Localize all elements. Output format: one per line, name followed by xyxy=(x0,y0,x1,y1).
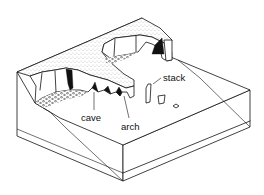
stack xyxy=(146,84,151,103)
label-stack: stack xyxy=(163,72,185,83)
stump xyxy=(158,95,165,104)
label-cave: cave xyxy=(81,112,101,123)
label-arch: arch xyxy=(121,121,139,132)
coastal-landforms-diagram: cave arch stack xyxy=(0,0,264,195)
